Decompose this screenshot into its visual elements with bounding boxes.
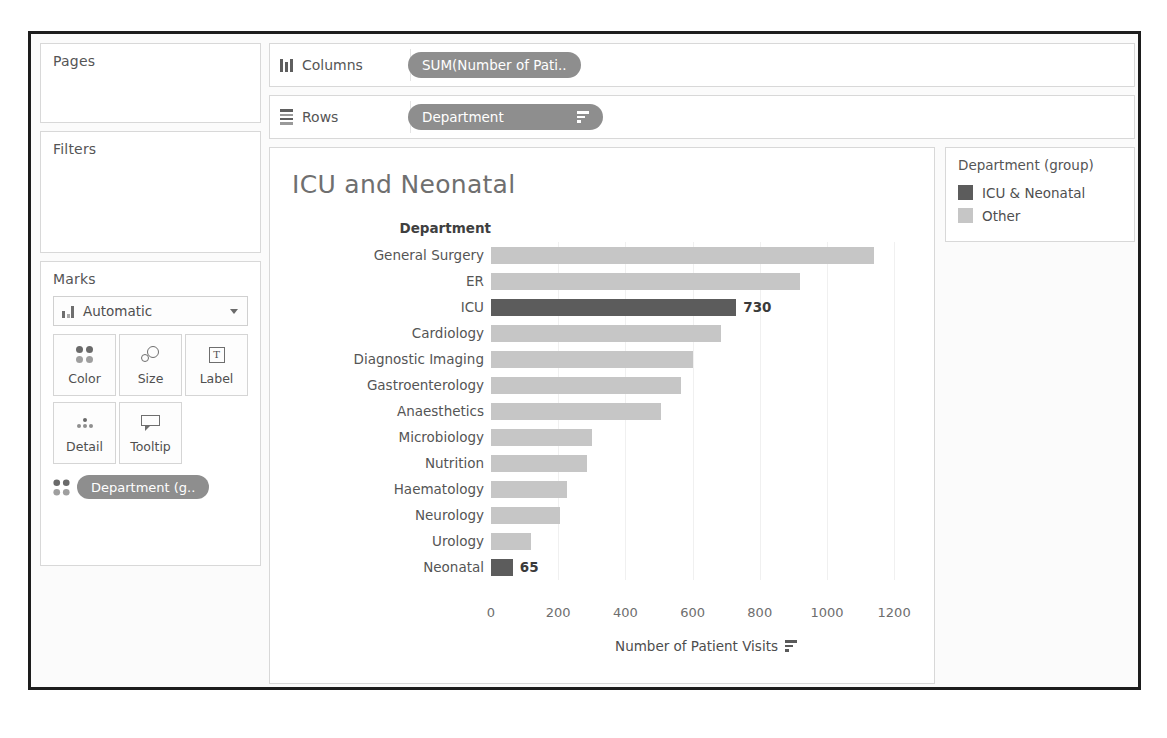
bar-row[interactable]: General Surgery	[270, 242, 936, 268]
x-axis-title: Number of Patient Visits	[491, 638, 921, 654]
bar-row[interactable]: Nutrition	[270, 450, 936, 476]
filters-shelf[interactable]: Filters	[40, 131, 261, 253]
bar-track	[491, 320, 936, 346]
bar-row-label: Cardiology	[270, 325, 491, 341]
bar-mark[interactable]	[491, 299, 736, 316]
bar-row[interactable]: Neurology	[270, 502, 936, 528]
bar-row-label: Haematology	[270, 481, 491, 497]
marks-detail-label: Detail	[66, 439, 103, 454]
bar-row[interactable]: Haematology	[270, 476, 936, 502]
bar-mark[interactable]	[491, 403, 661, 420]
bar-row-label: Anaesthetics	[270, 403, 491, 419]
marks-detail-button[interactable]: Detail	[53, 402, 116, 464]
bar-row[interactable]: Microbiology	[270, 424, 936, 450]
marks-size-button[interactable]: Size	[119, 334, 182, 396]
bar-track	[491, 346, 936, 372]
bar-row-label: Diagnostic Imaging	[270, 351, 491, 367]
bar-mark[interactable]	[491, 455, 587, 472]
x-axis-tick: 600	[680, 605, 705, 620]
marks-card[interactable]: Marks Automatic Color Size T	[40, 261, 261, 566]
chart-title: ICU and Neonatal	[292, 170, 515, 199]
size-icon	[141, 345, 161, 365]
x-axis-ticks: 020040060080010001200	[491, 605, 921, 629]
bar-row-label: Nutrition	[270, 455, 491, 471]
legend-item[interactable]: Other	[958, 204, 1085, 227]
bar-mark[interactable]	[491, 429, 592, 446]
bar-mark[interactable]	[491, 533, 531, 550]
bar-row[interactable]: ER	[270, 268, 936, 294]
bar-value-label: 730	[743, 299, 771, 315]
bar-mark[interactable]	[491, 507, 560, 524]
bar-track	[491, 528, 936, 554]
bar-track	[491, 424, 936, 450]
bar-track	[491, 502, 936, 528]
marks-label-button[interactable]: T Label	[185, 334, 248, 396]
x-axis-tick: 1000	[810, 605, 843, 620]
color-icon	[76, 345, 93, 365]
visualization-pane: ICU and Neonatal Department General Surg…	[269, 147, 935, 684]
tableau-worksheet-window: Pages Filters Marks Automatic Color Size	[28, 31, 1141, 690]
rows-icon	[280, 109, 293, 125]
pages-shelf[interactable]: Pages	[40, 43, 261, 123]
bar-chart: Department General SurgeryERICU730Cardio…	[270, 220, 936, 680]
bar-mark[interactable]	[491, 559, 513, 576]
bar-row-label: General Surgery	[270, 247, 491, 263]
bar-mark[interactable]	[491, 247, 874, 264]
x-axis-title-label: Number of Patient Visits	[615, 638, 778, 654]
bar-track	[491, 268, 936, 294]
bar-mark[interactable]	[491, 273, 800, 290]
bar-track	[491, 398, 936, 424]
marks-tooltip-button[interactable]: Tooltip	[119, 402, 182, 464]
rows-dimension-pill[interactable]: Department	[408, 104, 603, 130]
sort-descending-icon[interactable]	[563, 111, 589, 123]
marks-tooltip-label: Tooltip	[130, 439, 171, 454]
bar-track: 730	[491, 294, 936, 320]
columns-shelf-label: Columns	[302, 57, 363, 73]
bar-mark[interactable]	[491, 351, 693, 368]
legend-swatch	[958, 185, 973, 200]
columns-measure-pill[interactable]: SUM(Number of Pati..	[408, 52, 581, 78]
bar-row[interactable]: Cardiology	[270, 320, 936, 346]
bar-mark[interactable]	[491, 325, 721, 342]
x-axis-tick: 1200	[878, 605, 911, 620]
bar-track	[491, 242, 936, 268]
legend-swatch	[958, 208, 973, 223]
bar-row[interactable]: Neonatal65	[270, 554, 936, 580]
bar-mark[interactable]	[491, 481, 567, 498]
rows-shelf[interactable]: Rows Department	[269, 95, 1135, 139]
x-axis-tick: 200	[546, 605, 571, 620]
marks-size-label: Size	[138, 371, 164, 386]
bar-rows: General SurgeryERICU730CardiologyDiagnos…	[270, 242, 936, 580]
filters-shelf-title: Filters	[53, 141, 96, 157]
mark-type-dropdown[interactable]: Automatic	[53, 296, 248, 326]
bar-track: 65	[491, 554, 936, 580]
chevron-down-icon[interactable]	[230, 309, 238, 314]
sort-descending-icon[interactable]	[785, 640, 797, 651]
bar-row[interactable]: Anaesthetics	[270, 398, 936, 424]
legend-title: Department (group)	[958, 157, 1094, 173]
marks-color-label: Color	[68, 371, 101, 386]
columns-icon	[280, 59, 293, 72]
bar-row[interactable]: Gastroenterology	[270, 372, 936, 398]
rows-shelf-name-group: Rows	[280, 109, 408, 125]
columns-shelf[interactable]: Columns SUM(Number of Pati..	[269, 43, 1135, 87]
color-legend-card[interactable]: Department (group) ICU & NeonatalOther	[945, 147, 1135, 242]
color-icon	[53, 479, 69, 495]
marks-department-group-pill[interactable]: Department (g..	[77, 475, 209, 499]
marks-color-button[interactable]: Color	[53, 334, 116, 396]
bar-chart-icon	[62, 305, 74, 318]
legend-label: ICU & Neonatal	[982, 185, 1085, 201]
columns-shelf-name-group: Columns	[280, 57, 408, 73]
bar-row-label: Microbiology	[270, 429, 491, 445]
marks-color-pill-row[interactable]: Department (g..	[53, 475, 209, 499]
marks-label-label: Label	[200, 371, 234, 386]
label-icon: T	[209, 345, 225, 365]
bar-row[interactable]: Urology	[270, 528, 936, 554]
bar-track	[491, 372, 936, 398]
mark-type-value: Automatic	[83, 303, 152, 319]
bar-row[interactable]: ICU730	[270, 294, 936, 320]
bar-row[interactable]: Diagnostic Imaging	[270, 346, 936, 372]
bar-mark[interactable]	[491, 377, 681, 394]
legend-item[interactable]: ICU & Neonatal	[958, 181, 1085, 204]
x-axis-tick: 800	[747, 605, 772, 620]
